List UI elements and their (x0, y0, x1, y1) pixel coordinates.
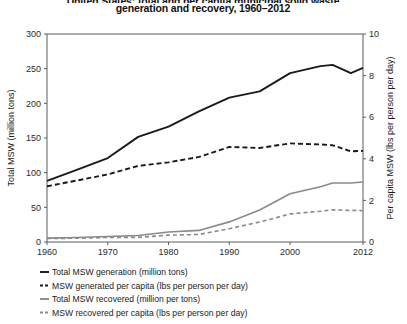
y-axis-right-tick-label: 2 (369, 196, 374, 206)
series-line-3 (47, 210, 363, 239)
chart-plot-area: 0501001502002503000246810196019701980199… (0, 0, 407, 324)
series-line-2 (47, 182, 363, 238)
y-axis-left-tick-label: 250 (26, 64, 41, 74)
y-axis-right-tick-label: 0 (369, 237, 374, 247)
series-line-1 (47, 143, 363, 186)
y-axis-right-tick-label: 4 (369, 154, 374, 164)
tick-labels-layer: 0501001502002503000246810196019701980199… (26, 29, 379, 257)
legend-label-1[interactable]: MSW generated per capita (lbs per person… (52, 281, 248, 291)
y-axis-right-tick-label: 6 (369, 112, 374, 122)
chart-legend: Total MSW generation (million tons)MSW g… (40, 267, 248, 318)
legend-label-3[interactable]: MSW recovered per capita (lbs per person… (52, 308, 247, 318)
x-axis-tick-label: 1980 (159, 247, 179, 257)
y-axis-right-tick-label: 8 (369, 71, 374, 81)
series-line-0 (47, 65, 363, 181)
y-axis-left-tick-label: 100 (26, 168, 41, 178)
legend-label-2[interactable]: Total MSW recovered (million per tons) (52, 294, 200, 304)
axis-titles-layer: Total MSW (million tons)Per capita MSW (… (6, 56, 395, 219)
axes-layer (44, 34, 366, 245)
y-axis-right-tick-label: 10 (369, 29, 379, 39)
y-axis-left-tick-label: 150 (26, 133, 41, 143)
x-axis-tick-label: 1960 (37, 247, 57, 257)
y-axis-left-title: Total MSW (million tons) (6, 89, 16, 186)
x-axis-tick-label: 1990 (219, 247, 239, 257)
y-axis-left-tick-label: 0 (36, 237, 41, 247)
x-axis-tick-label: 2000 (280, 247, 300, 257)
chart-figure: United States: total and per capita muni… (0, 0, 407, 324)
y-axis-left-tick-label: 200 (26, 99, 41, 109)
y-axis-right-title: Per capita MSW (lbs per person per day) (385, 56, 395, 219)
y-axis-left-tick-label: 300 (26, 29, 41, 39)
legend-label-0[interactable]: Total MSW generation (million tons) (52, 267, 188, 277)
x-axis-tick-label: 2012 (353, 247, 373, 257)
series-layer (47, 65, 363, 239)
y-axis-left-tick-label: 50 (31, 203, 41, 213)
x-axis-tick-label: 1970 (98, 247, 118, 257)
